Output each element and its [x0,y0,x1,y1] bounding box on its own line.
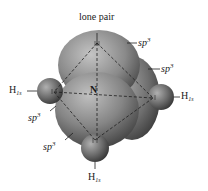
lone-pair-label: lone pair [79,12,114,22]
ammonia-orbital-diagram [0,0,208,191]
sp3-label-left-upper: sp3 [28,112,40,123]
sp3-label-right: sp3 [161,63,173,74]
hydrogen-label-bottom: H1s [88,172,101,183]
hydrogen-sphere-bottom [81,134,109,162]
hydrogen-label-left: H1s [9,85,22,96]
hydrogen-sphere-left [37,78,63,104]
nitrogen-label: N [90,85,97,95]
hydrogen-label-right: H1s [181,91,194,102]
sp3-label-top-right: sp3 [138,37,150,48]
sp3-label-left-lower: sp3 [43,141,55,152]
